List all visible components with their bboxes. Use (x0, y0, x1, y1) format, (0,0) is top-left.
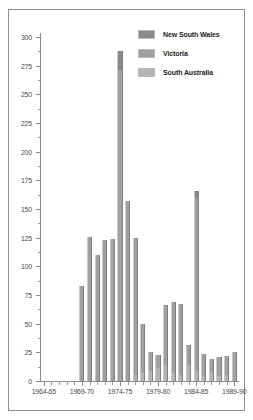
bar[interactable] (155, 355, 160, 381)
bar[interactable] (224, 356, 229, 381)
bar[interactable] (194, 191, 199, 381)
y-axis-label: 300 (0, 34, 32, 41)
x-axis-label: 1989-90 (222, 388, 246, 395)
y-axis-tick (36, 180, 40, 181)
x-axis-label: 1979-80 (146, 388, 170, 395)
y-axis-label: 125 (0, 234, 32, 241)
bar-segment (110, 239, 115, 381)
y-axis-label: 175 (0, 177, 32, 184)
bar-segment (194, 198, 199, 371)
bar[interactable] (232, 352, 237, 381)
bar-segment (117, 51, 122, 70)
x-axis-minor-tick (135, 382, 136, 385)
legend-item[interactable]: New South Wales (138, 27, 238, 42)
bar[interactable] (125, 201, 130, 381)
bar-segment (216, 376, 221, 381)
y-axis-tick (36, 266, 40, 267)
bar-segment (171, 373, 176, 381)
bar[interactable] (216, 357, 221, 381)
bar-segment (140, 373, 145, 381)
y-axis-tick (36, 37, 40, 38)
x-axis-minor-tick (67, 382, 68, 385)
legend-label: Victoria (163, 50, 188, 57)
bar-segment (216, 357, 221, 376)
bar-segment (194, 191, 199, 198)
bar[interactable] (87, 237, 92, 381)
chart-legend: New South WalesVictoriaSouth Australia (138, 27, 238, 84)
legend-label: New South Wales (163, 31, 220, 38)
bar-segment (171, 302, 176, 373)
bar[interactable] (110, 239, 115, 381)
x-axis-minor-tick (166, 382, 167, 385)
bar[interactable] (133, 238, 138, 381)
x-axis-minor-tick (219, 382, 220, 385)
y-axis-tick (36, 66, 40, 67)
x-axis-minor-tick (150, 382, 151, 385)
y-axis-tick (36, 295, 40, 296)
bar-segment (163, 365, 168, 381)
y-axis-minor-tick (38, 166, 40, 167)
y-axis-minor-tick (38, 367, 40, 368)
x-axis-minor-tick (128, 382, 129, 385)
bar[interactable] (201, 353, 206, 381)
y-axis-tick (36, 324, 40, 325)
bar-segment (209, 372, 214, 381)
x-axis-tick (234, 382, 235, 386)
bar-segment (186, 365, 191, 381)
bar[interactable] (163, 305, 168, 381)
bar-segment (186, 345, 191, 364)
bar[interactable] (209, 359, 214, 381)
bar-segment (178, 304, 183, 375)
bar-segment (125, 201, 130, 381)
bar-segment (133, 238, 138, 376)
bar-segment (155, 368, 160, 381)
y-axis-minor-tick (38, 223, 40, 224)
x-axis-minor-tick (204, 382, 205, 385)
y-axis-minor-tick (38, 51, 40, 52)
x-axis-minor-tick (112, 382, 113, 385)
bar-segment (95, 255, 100, 381)
x-axis-minor-tick (227, 382, 228, 385)
bar[interactable] (117, 51, 122, 381)
y-axis-minor-tick (38, 252, 40, 253)
x-axis-minor-tick (173, 382, 174, 385)
bar-segment (224, 356, 229, 375)
bar-segment (201, 354, 206, 377)
bar[interactable] (148, 352, 153, 381)
x-axis-minor-tick (59, 382, 60, 385)
legend-label: South Australia (163, 69, 213, 76)
y-axis-minor-tick (38, 281, 40, 282)
bar[interactable] (102, 240, 107, 381)
y-axis-tick (36, 381, 40, 382)
legend-swatch (138, 68, 155, 77)
bar-segment (87, 237, 92, 381)
bar[interactable] (178, 304, 183, 381)
x-axis-minor-tick (181, 382, 182, 385)
bar-segment (148, 371, 153, 381)
y-axis-tick (36, 209, 40, 210)
legend-item[interactable]: Victoria (138, 46, 238, 61)
bar-segment (155, 355, 160, 369)
y-axis-minor-tick (38, 309, 40, 310)
y-axis-label: 225 (0, 120, 32, 127)
bar[interactable] (140, 324, 145, 381)
y-axis-label: 250 (0, 91, 32, 98)
x-axis-line (40, 381, 239, 382)
x-axis-tick (196, 382, 197, 386)
bar-segment (102, 240, 107, 381)
y-axis-tick (36, 94, 40, 95)
bar[interactable] (171, 302, 176, 381)
plot-area (40, 37, 238, 381)
bar[interactable] (95, 255, 100, 381)
legend-item[interactable]: South Australia (138, 65, 238, 80)
bar[interactable] (186, 345, 191, 381)
y-axis-label: 100 (0, 263, 32, 270)
bar[interactable] (79, 286, 84, 381)
x-axis-minor-tick (211, 382, 212, 385)
y-axis-minor-tick (38, 109, 40, 110)
x-axis-tick (120, 382, 121, 386)
x-axis-minor-tick (74, 382, 75, 385)
x-axis-label: 1969-70 (70, 388, 94, 395)
chart-figure: 0255075100125150175200225250275300 1964-… (0, 0, 253, 420)
bar-segment (117, 70, 122, 381)
